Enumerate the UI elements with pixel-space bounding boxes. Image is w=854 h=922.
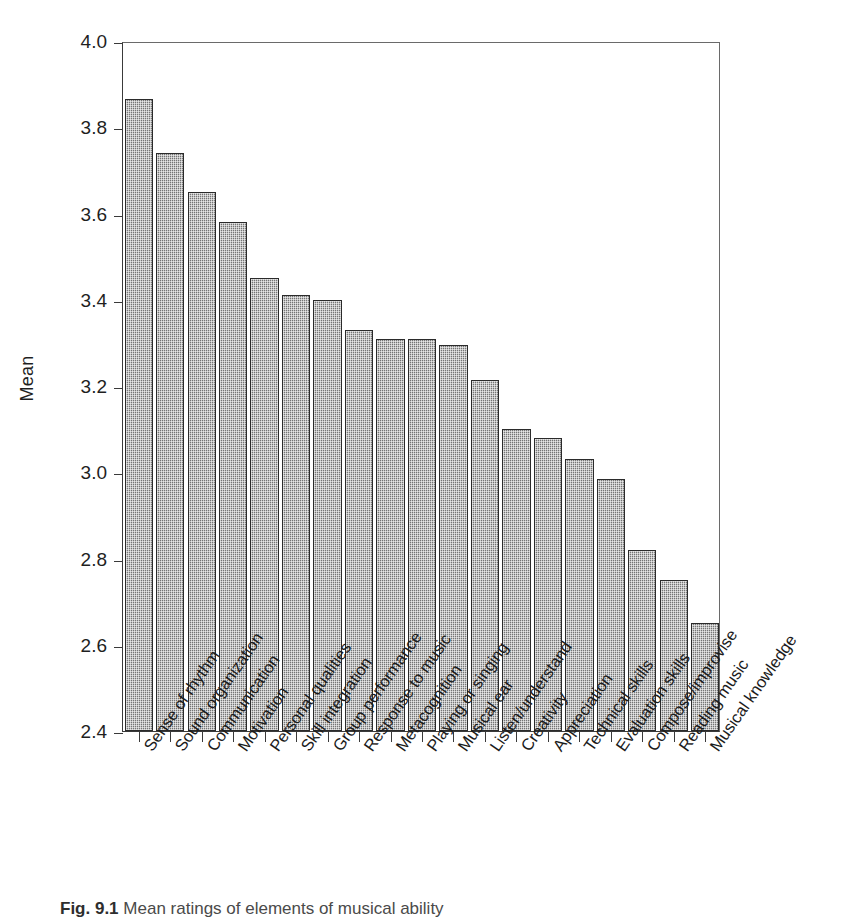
y-axis-tick-label: 2.8	[81, 549, 107, 571]
y-axis-tick: 3.2	[114, 388, 123, 389]
y-axis-tick-label: 3.2	[81, 376, 107, 398]
caption-text: Mean ratings of elements of musical abil…	[123, 899, 443, 918]
y-axis-tick: 3.0	[114, 474, 123, 475]
y-axis-tick: 2.6	[114, 647, 123, 648]
y-axis-tick-label: 3.4	[81, 290, 107, 312]
y-axis-tick-label: 3.0	[81, 462, 107, 484]
y-axis-tick: 3.4	[114, 302, 123, 303]
y-axis-tick-label: 2.6	[81, 635, 107, 657]
figure-number: Fig. 9.1	[60, 899, 119, 918]
y-axis-tick: 3.8	[114, 129, 123, 130]
y-axis-tick-label: 3.6	[81, 204, 107, 226]
bar-series	[123, 43, 719, 731]
bar	[156, 153, 184, 731]
bar	[125, 99, 153, 731]
y-axis-tick-label: 4.0	[81, 31, 107, 53]
figure-musical-ability: Mean 2.42.62.83.03.23.43.63.84.0 Sense o…	[0, 0, 854, 922]
y-axis-tick: 4.0	[114, 43, 123, 44]
plot-area: 2.42.62.83.03.23.43.63.84.0	[122, 42, 720, 732]
y-axis-tick-label: 2.4	[81, 721, 107, 743]
x-axis-tick	[139, 731, 140, 742]
y-axis-title: Mean	[17, 334, 38, 424]
y-axis-tick: 2.4	[114, 733, 123, 734]
x-axis-category-labels: Sense of rhythmSound organizationCommuni…	[122, 744, 854, 904]
y-axis-tick: 2.8	[114, 561, 123, 562]
y-axis-tick: 3.6	[114, 216, 123, 217]
y-axis-tick-label: 3.8	[81, 117, 107, 139]
figure-caption: Fig. 9.1 Mean ratings of elements of mus…	[60, 899, 444, 919]
bar	[282, 295, 310, 731]
